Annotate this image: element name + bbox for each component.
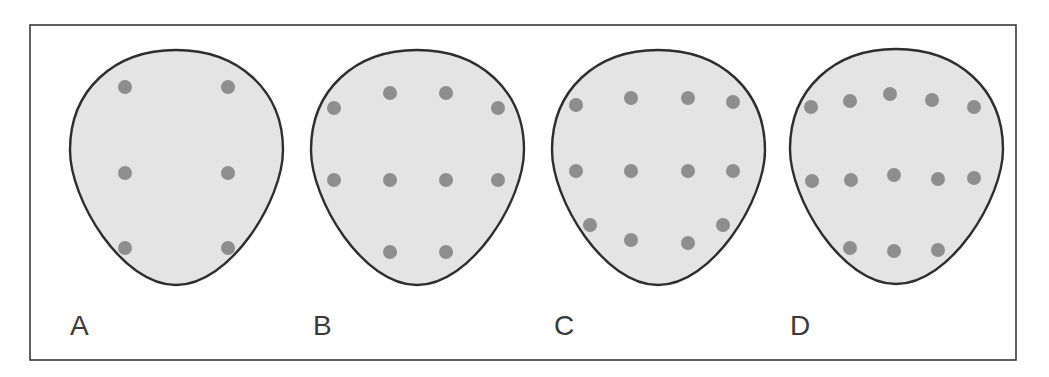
panel-b [311,50,524,285]
electrode-dot [221,166,235,180]
head-outline [70,50,283,285]
electrode-dot [681,164,695,178]
electrode-dot [931,172,945,186]
panel-label-c: C [554,312,574,340]
electrode-dot [118,241,132,255]
electrode-dot [569,98,583,112]
electrode-dot [624,233,638,247]
electrode-dot [624,91,638,105]
electrode-dot [383,173,397,187]
figure: A B C D [0,0,1049,377]
panel-label-a: A [70,312,89,340]
electrode-dot [221,241,235,255]
electrode-dot [118,166,132,180]
electrode-dot [583,218,597,232]
electrode-dot [439,173,453,187]
electrode-dot [883,87,897,101]
panel-a [70,50,283,285]
head-outline [311,50,524,285]
electrode-dot [887,168,901,182]
electrode-dot [844,173,858,187]
electrode-dot [118,80,132,94]
electrode-dot [439,86,453,100]
electrode-dot [383,245,397,259]
electrode-dot [681,236,695,250]
electrode-dot [327,173,341,187]
electrode-dot [569,164,583,178]
electrode-dot [716,218,730,232]
electrode-dot [624,164,638,178]
electrode-dot [925,93,939,107]
diagram-canvas [0,0,1049,377]
electrode-dot [383,86,397,100]
electrode-dot [726,164,740,178]
electrode-dot [967,171,981,185]
panel-label-b: B [313,312,332,340]
electrode-dot [887,244,901,258]
electrode-dot [327,101,341,115]
electrode-dot [491,101,505,115]
panel-c [552,50,765,285]
electrode-dot [931,243,945,257]
electrode-dot [439,245,453,259]
electrode-dot [843,241,857,255]
electrode-dot [681,91,695,105]
electrode-dot [805,174,819,188]
electrode-dot [726,95,740,109]
panel-d [790,49,1003,284]
electrode-dot [221,80,235,94]
electrode-dot [843,94,857,108]
electrode-dot [491,173,505,187]
electrode-dot [804,100,818,114]
panels [70,49,1003,285]
electrode-dot [967,100,981,114]
panel-label-d: D [790,312,810,340]
